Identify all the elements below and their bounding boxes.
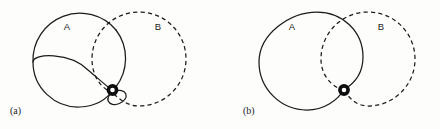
panel-b-label-a: A [289, 21, 296, 32]
figure-container: A B (a) A B (b) [0, 0, 440, 129]
panel-a-set-a-upper [33, 13, 116, 62]
set-diagram-svg: A B (a) A B (b) [0, 0, 440, 129]
panel-b: A B (b) [243, 12, 415, 117]
panel-b-label-b: B [378, 21, 385, 32]
panel-a: A B (a) [10, 12, 186, 117]
panel-b-caption: (b) [243, 105, 255, 117]
panel-a-set-a-right [116, 30, 126, 88]
panel-b-set-b-curve [321, 12, 415, 106]
panel-b-tangency-node [340, 86, 348, 94]
panel-a-set-b-curve [92, 12, 186, 106]
panel-a-tangency-node [108, 86, 116, 94]
panel-a-caption: (a) [10, 105, 21, 117]
panel-b-set-a-curve [259, 12, 363, 110]
panel-a-set-a-curve [33, 56, 113, 107]
panel-a-label-b: B [155, 21, 162, 32]
panel-a-label-a: A [64, 21, 71, 32]
